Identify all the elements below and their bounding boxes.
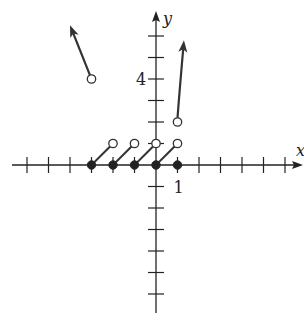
tick-label-y-4: 4 — [136, 70, 146, 89]
left-ray-start-dot — [87, 75, 95, 83]
segment-1-end-dot — [109, 139, 117, 147]
segment-1-start-dot — [87, 161, 95, 169]
tick-label-x-1: 1 — [174, 178, 184, 197]
segment-4-end-dot — [173, 139, 181, 147]
right-curve-start-dot — [173, 118, 181, 126]
segment-3-start-dot — [130, 161, 138, 169]
left-ray-line — [73, 33, 90, 75]
point-1-0 — [173, 161, 181, 169]
function-graph: x y 41 — [0, 0, 304, 319]
segment-2-start-dot — [109, 161, 117, 169]
segment-2-end-dot — [130, 139, 138, 147]
y-axis-label: y — [162, 9, 173, 28]
segment-4-start-dot — [152, 161, 160, 169]
right-curve-path — [178, 48, 184, 118]
x-axis-label: x — [296, 141, 304, 160]
graph-marks — [70, 25, 187, 169]
segment-3-end-dot — [152, 139, 160, 147]
tick-labels: 41 — [136, 70, 184, 197]
